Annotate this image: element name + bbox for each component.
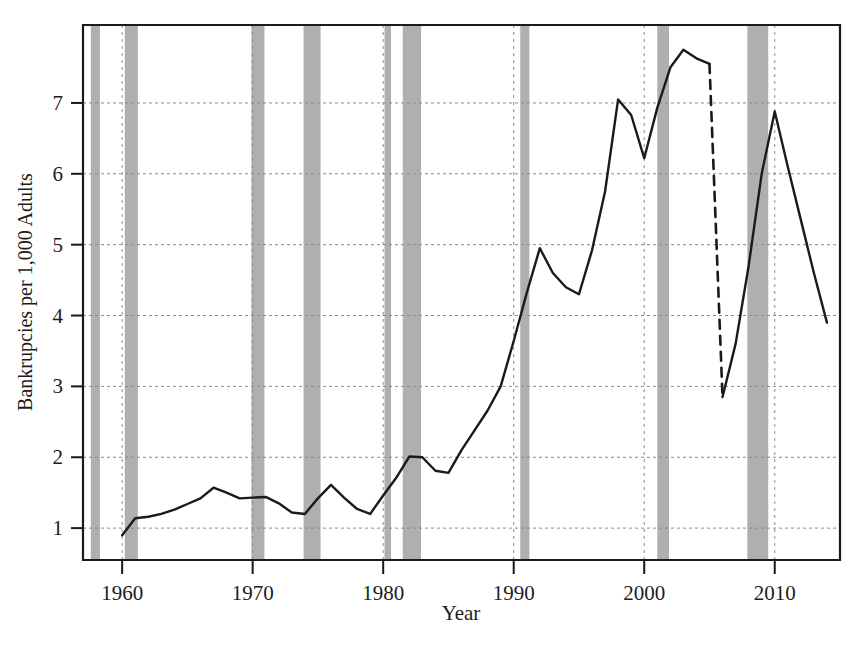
recession-band (384, 25, 391, 560)
recession-band (747, 25, 768, 560)
y-axis-tick-label: 4 (53, 304, 64, 328)
recession-band (125, 25, 138, 560)
y-axis-tick-labels: 1234567 (53, 91, 64, 540)
x-axis-tick-label: 2000 (623, 581, 665, 605)
y-axis-tick-label: 3 (53, 374, 64, 398)
y-axis-tick-label: 5 (53, 233, 64, 257)
x-axis-tick-label: 1970 (232, 581, 274, 605)
x-axis-tick-label: 1980 (362, 581, 404, 605)
y-axis-ticks-group (71, 103, 83, 528)
plot-background (83, 25, 840, 560)
bankruptcy-line-chart: 1234567 196019701980199020002010 Year Ba… (0, 0, 866, 646)
x-axis-tick-label: 1960 (101, 581, 143, 605)
x-axis-title: Year (442, 601, 481, 625)
recession-band (251, 25, 264, 560)
recession-band (91, 25, 100, 560)
recession-band (304, 25, 321, 560)
chart-figure: 1234567 196019701980199020002010 Year Ba… (0, 0, 866, 646)
y-axis-tick-label: 1 (53, 516, 64, 540)
y-axis-tick-label: 2 (53, 445, 64, 469)
recession-band (403, 25, 421, 560)
y-axis-tick-label: 7 (53, 91, 64, 115)
x-axis-tick-label: 2010 (754, 581, 796, 605)
y-axis-title: Bankrupcies per 1,000 Adults (14, 173, 37, 411)
x-axis-ticks-group (122, 560, 775, 574)
x-axis-tick-label: 1990 (493, 581, 535, 605)
y-axis-tick-label: 6 (53, 162, 64, 186)
